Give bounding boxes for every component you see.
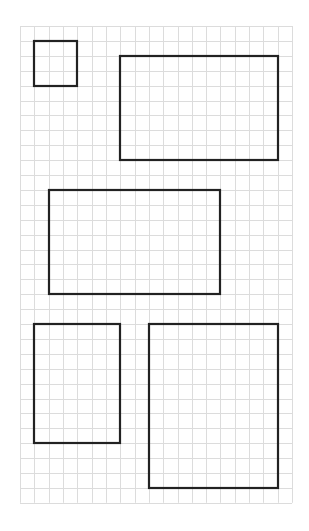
rect-5 xyxy=(149,324,278,488)
grid-diagram xyxy=(0,0,309,531)
grid-lines xyxy=(20,26,293,504)
rect-1 xyxy=(34,41,77,86)
